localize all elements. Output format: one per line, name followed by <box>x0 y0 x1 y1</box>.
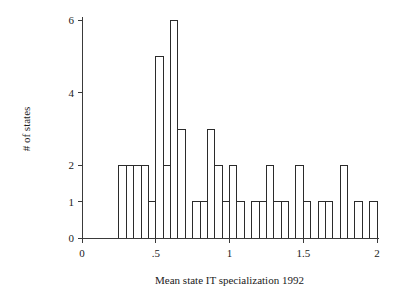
y-tick-label: 1 <box>69 196 75 208</box>
y-tick-label: 6 <box>69 14 75 26</box>
histogram-bar <box>222 202 229 238</box>
histogram-bar <box>178 129 185 238</box>
histogram-bar <box>193 202 200 238</box>
x-axis: 0.511.52 <box>78 238 380 259</box>
y-axis-title: # of states <box>20 107 32 152</box>
y-tick-label: 0 <box>69 232 75 244</box>
histogram-bar <box>237 202 244 238</box>
y-tick-label: 4 <box>69 87 75 99</box>
histogram-bar <box>340 165 347 238</box>
histogram-bar <box>303 202 310 238</box>
histogram-bar <box>200 202 207 238</box>
histogram-bar <box>156 56 163 238</box>
histogram-bar <box>281 202 288 238</box>
histogram-bar <box>119 165 126 238</box>
histogram-bar <box>171 20 178 238</box>
y-tick-label: 2 <box>69 159 75 171</box>
histogram-bar <box>266 165 273 238</box>
x-tick-label: 2 <box>374 247 380 259</box>
histogram-bar <box>148 202 155 238</box>
histogram-bar <box>259 202 266 238</box>
histogram-bar <box>126 165 133 238</box>
histogram-bar <box>274 202 281 238</box>
histogram-bar <box>370 202 377 238</box>
histogram-bar <box>134 165 141 238</box>
x-tick-label: 1.5 <box>296 247 310 259</box>
histogram-bar <box>207 129 214 238</box>
histogram-bar <box>163 165 170 238</box>
histogram-plot: 01246 0.511.52 Mean state IT specializat… <box>0 0 405 308</box>
histogram-bar <box>318 202 325 238</box>
histogram-bar <box>325 202 332 238</box>
histogram-bar <box>252 202 259 238</box>
x-axis-title: Mean state IT specialization 1992 <box>155 274 304 286</box>
histogram-bar <box>215 165 222 238</box>
histogram-bar <box>355 202 362 238</box>
x-tick-label: 0 <box>79 247 85 259</box>
x-tick-label: .5 <box>152 247 161 259</box>
histogram-bar <box>296 165 303 238</box>
y-axis: 01246 <box>69 14 83 244</box>
histogram-bar <box>230 165 237 238</box>
histogram-figure: 01246 0.511.52 Mean state IT specializat… <box>0 0 405 308</box>
bars-group <box>119 20 377 238</box>
histogram-bar <box>141 165 148 238</box>
x-tick-label: 1 <box>227 247 233 259</box>
